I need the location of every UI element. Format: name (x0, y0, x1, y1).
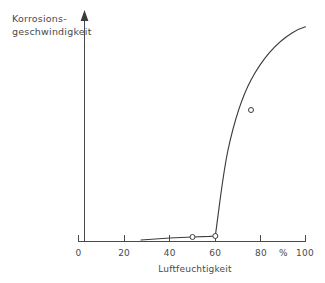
y-axis-title-line-1: Korrosions- (12, 13, 67, 24)
y-axis-title-line-2: geschwindigkeit (12, 26, 92, 37)
y-axis-arrow-icon (81, 10, 89, 21)
chart-canvas: 0 20 40 60 80 100 % Luftfeuchtigkeit Kor… (0, 0, 325, 283)
x-tick-label-0: 0 (76, 248, 82, 258)
x-tick-label-100: 100 (296, 248, 314, 258)
data-marker-50 (190, 235, 195, 240)
x-tick-label-20: 20 (118, 248, 130, 258)
x-axis-title: Luftfeuchtigkeit (158, 264, 232, 274)
x-tick-label-40: 40 (164, 248, 176, 258)
corrosion-humidity-chart: 0 20 40 60 80 100 % Luftfeuchtigkeit Kor… (0, 0, 325, 283)
x-tick-label-60: 60 (209, 248, 221, 258)
corrosion-rate-curve (141, 27, 306, 240)
x-tick-label-80: 80 (255, 248, 267, 258)
x-axis-unit-label: % (279, 248, 288, 258)
data-marker-75 (249, 108, 254, 113)
curve-markers (190, 108, 254, 240)
data-marker-60 (213, 234, 218, 239)
